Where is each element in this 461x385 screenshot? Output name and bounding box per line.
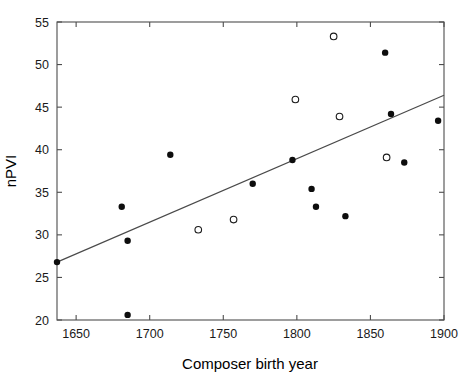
y-tick-label: 20 — [35, 314, 49, 328]
data-point-filled — [342, 213, 348, 219]
scatter-plot-figure: 165017001750180018501900 202530354045505… — [0, 0, 461, 385]
data-point-filled — [167, 152, 173, 158]
data-point-filled — [401, 159, 407, 165]
y-tick-label: 25 — [35, 271, 49, 285]
y-tick-label: 50 — [35, 58, 49, 72]
x-tick-label: 1900 — [430, 327, 458, 341]
data-point-open — [195, 226, 202, 233]
data-point-open — [383, 154, 390, 161]
data-point-filled — [250, 181, 256, 187]
y-tick-label: 30 — [35, 228, 49, 242]
data-point-filled — [119, 204, 125, 210]
x-tick-label: 1650 — [62, 327, 90, 341]
data-point-open — [336, 113, 343, 120]
y-axis-label: nPVI — [2, 155, 19, 188]
x-tick-label: 1800 — [283, 327, 311, 341]
y-tick-label: 35 — [35, 186, 49, 200]
data-point-filled — [54, 259, 60, 265]
x-tick-label: 1850 — [357, 327, 385, 341]
data-point-filled — [124, 238, 130, 244]
data-point-open — [330, 33, 337, 40]
x-tick-label: 1700 — [136, 327, 164, 341]
x-tick-label: 1750 — [209, 327, 237, 341]
data-point-filled — [124, 312, 130, 318]
data-point-open — [292, 96, 299, 103]
y-tick-label: 45 — [35, 101, 49, 115]
data-point-open — [230, 216, 237, 223]
data-point-filled — [289, 157, 295, 163]
y-tick-label: 55 — [35, 16, 49, 30]
data-point-filled — [308, 186, 314, 192]
y-tick-label: 40 — [35, 143, 49, 157]
x-axis-label: Composer birth year — [182, 355, 318, 372]
data-point-filled — [313, 204, 319, 210]
data-point-filled — [388, 111, 394, 117]
data-point-filled — [382, 49, 388, 55]
data-point-filled — [435, 118, 441, 124]
